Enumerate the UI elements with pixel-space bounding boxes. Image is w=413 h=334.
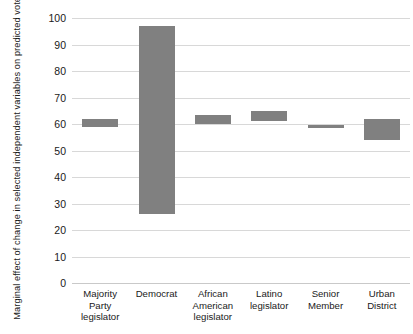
x-axis-category-label-line: Senior [293,288,357,300]
y-axis-tick-label: 80 [26,65,66,77]
gridline [72,230,410,231]
y-axis-tick-label: 0 [26,277,66,289]
x-axis-category-label-line: Party [68,300,132,312]
x-axis-category-label: MajorityPartylegislator [68,288,132,323]
x-axis-category-label-line: Urban [350,288,413,300]
gridline [72,151,410,152]
y-axis-tick-label: 50 [26,145,66,157]
x-axis-category-label: AfricanAmericanlegislator [181,288,245,323]
gridline [72,18,410,19]
bar [308,125,344,128]
y-axis-tick-label: 30 [26,198,66,210]
y-axis-tick-label: 60 [26,118,66,130]
gridline [72,71,410,72]
gridline [72,177,410,178]
x-axis-category-label-line: African [181,288,245,300]
x-axis-category-label-line: legislator [68,311,132,323]
gridline [72,257,410,258]
x-axis-category-label-line: District [350,300,413,312]
x-axis-category-label: UrbanDistrict [350,288,413,311]
x-axis-category-label: SeniorMember [293,288,357,311]
x-axis-category-label-line: legislator [181,311,245,323]
x-axis-category-labels: MajorityPartylegislatorDemocratAfricanAm… [72,288,410,334]
plot-area [72,18,410,283]
y-axis-tick-label: 10 [26,251,66,263]
x-axis-category-label-line: Democrat [124,288,188,300]
x-axis-category-label: Democrat [124,288,188,300]
gridline [72,204,410,205]
x-axis-category-label-line: Member [293,300,357,312]
bar [195,115,231,124]
gridline [72,45,410,46]
bar [364,119,400,140]
gridline [72,98,410,99]
y-axis-tick-label: 70 [26,92,66,104]
bar [251,111,287,122]
x-axis-category-label-line: legislator [237,300,301,312]
y-axis-tick-label: 90 [26,39,66,51]
bar [82,119,118,127]
y-axis-tick-labels: 0102030405060708090100 [26,18,66,283]
gridline [72,283,410,284]
x-axis-category-label-line: Majority [68,288,132,300]
x-axis-category-label-line: Latino [237,288,301,300]
y-axis-title: Marginal effect of change in selected in… [12,0,23,319]
bar [139,26,175,214]
y-axis-tick-label: 100 [26,12,66,24]
gridline [72,124,410,125]
x-axis-category-label: Latinolegislator [237,288,301,311]
chart-figure: Marginal effect of change in selected in… [0,0,413,334]
x-axis-category-label-line: American [181,300,245,312]
y-axis-tick-label: 20 [26,224,66,236]
y-axis-tick-label: 40 [26,171,66,183]
